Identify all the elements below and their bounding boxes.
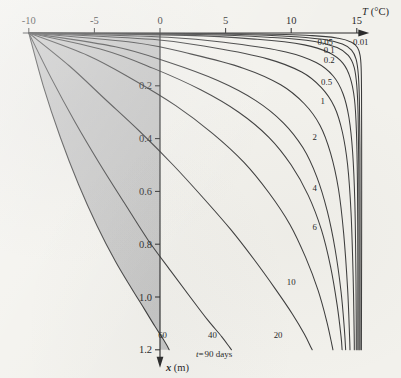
y-axis-title: x(m) [165,362,189,374]
soil-temperature-profile-figure: -10-5051015 0.20.40.60.81.01.2 0.010.050… [0,0,401,378]
curve-label-10: 10 [287,277,296,287]
x-tick-label--10: -10 [22,15,36,26]
curve-label-20: 20 [274,330,283,340]
curve-label-60: 60 [158,330,167,340]
curve-label-0.2: 0.2 [324,55,335,65]
x-tick-label--5: -5 [90,15,99,26]
y-tick-label-0.2: 0.2 [139,80,152,91]
y-tick-label-1.0: 1.0 [139,292,152,303]
temperature-depth-chart: -10-5051015 0.20.40.60.81.01.2 0.010.050… [0,0,401,378]
time-annotation: t=90 days [196,349,233,359]
curve-labels: 0.010.050.10.20.5124610204060 [158,37,368,340]
y-tick-label-1.2: 1.2 [139,344,152,355]
x-axis-ticks [29,28,357,33]
curve-label-1: 1 [320,96,324,106]
y-axis-arrow-icon [157,357,164,368]
curve-label-0.1: 0.1 [324,45,335,55]
x-tick-label-0: 0 [157,15,162,26]
y-tick-label-0.6: 0.6 [139,186,152,197]
y-tick-label-0.4: 0.4 [139,133,153,144]
curve-label-6: 6 [313,222,318,232]
x-tick-label-10: 10 [286,15,297,26]
curve-label-0.01: 0.01 [353,37,368,47]
curve-label-2: 2 [313,132,317,142]
x-axis-title: T(°C) [362,6,390,18]
x-axis-arrow-icon [358,30,369,37]
curve-label-0.5: 0.5 [321,77,333,87]
curve-label-4: 4 [313,183,318,193]
y-tick-label-0.8: 0.8 [139,239,152,250]
x-tick-label-5: 5 [223,15,228,26]
curve-label-40: 40 [208,330,217,340]
x-axis-tick-labels: -10-5051015 [22,15,362,26]
x-tick-label-15: 15 [352,15,363,26]
